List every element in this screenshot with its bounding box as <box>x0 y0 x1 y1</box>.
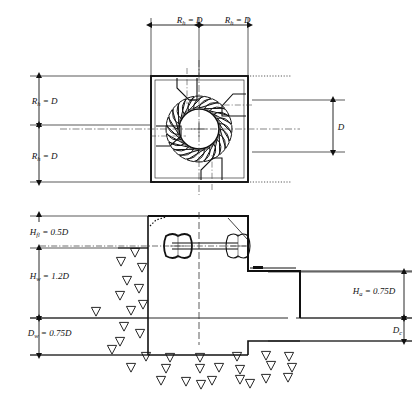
soil-triangle <box>261 374 270 383</box>
soil-triangle <box>284 352 293 361</box>
soil-triangle <box>287 363 296 372</box>
soil-triangle <box>156 376 165 385</box>
soil-triangle <box>161 364 170 373</box>
plan-dim-top-right-label: Rh = D <box>209 15 262 26</box>
engineering-drawing-svg: Rh = D Rh = D Rh = D Rh = D <box>0 0 417 404</box>
soil-triangle <box>232 352 241 361</box>
section-reference-lines <box>30 271 412 355</box>
soil-triangle <box>115 337 124 346</box>
drive-pulley-center-mark <box>170 234 186 258</box>
soil-triangle <box>134 284 143 293</box>
soil-triangle <box>126 363 135 372</box>
soil-triangle <box>126 306 135 315</box>
section-dim-hw-label: Hw = 1.2D <box>14 271 80 282</box>
soil-triangle <box>138 300 147 309</box>
soil-triangle <box>130 248 139 257</box>
soil-triangle <box>116 257 125 266</box>
soil-triangle <box>235 365 244 374</box>
section-dim-dc-label: Dc <box>377 325 413 337</box>
soil-triangle <box>261 351 270 360</box>
corner-detail-left <box>150 217 166 226</box>
figure-canvas: Rh = D Rh = D Rh = D Rh = D <box>0 0 417 404</box>
soil-triangle <box>235 375 244 384</box>
soil-triangle <box>214 363 223 372</box>
soil-triangle <box>119 322 128 331</box>
soil-triangle <box>181 377 190 386</box>
soil-triangle <box>115 291 124 300</box>
section-dim-dw-label: Dw = 0.75D <box>12 328 83 339</box>
soil-triangle <box>137 263 146 272</box>
plan-view: Rh = D Rh = D Rh = D Rh = D <box>16 15 356 195</box>
soil-triangle <box>266 361 275 370</box>
section-dim-ha-label: Ha = 0.75D <box>337 286 407 297</box>
soil-triangle <box>245 379 254 388</box>
driven-pulley-center-mark <box>230 234 246 258</box>
plan-dim-top-left-label: Rh = D <box>161 15 214 26</box>
soil-triangle <box>122 276 131 285</box>
soil-triangle <box>196 380 205 389</box>
soil-triangle <box>195 364 204 373</box>
soil-triangle <box>107 345 116 354</box>
impeller-center-mark <box>191 121 207 137</box>
plan-dim-left-upper-label: Rh = D <box>16 96 69 107</box>
soil-triangle <box>207 376 216 385</box>
soil-triangle <box>141 352 150 361</box>
section-view: Hfl = 0.5D Hw = 1.2D Dw = 0.75D Ha = 0.7… <box>12 212 413 389</box>
section-dim-hfl-label: Hfl = 0.5D <box>14 227 79 238</box>
plan-dim-right-label: D <box>322 122 356 132</box>
plan-top-dimension-extensions <box>151 18 248 75</box>
soil-triangle <box>135 329 144 338</box>
soil-triangle <box>283 373 292 382</box>
plan-dim-left-lower-label: Rh = D <box>16 151 69 162</box>
soil-symbols <box>91 248 296 389</box>
soil-triangle <box>91 307 100 316</box>
structure-profile-top <box>148 216 300 318</box>
structure-step-right <box>248 341 300 355</box>
